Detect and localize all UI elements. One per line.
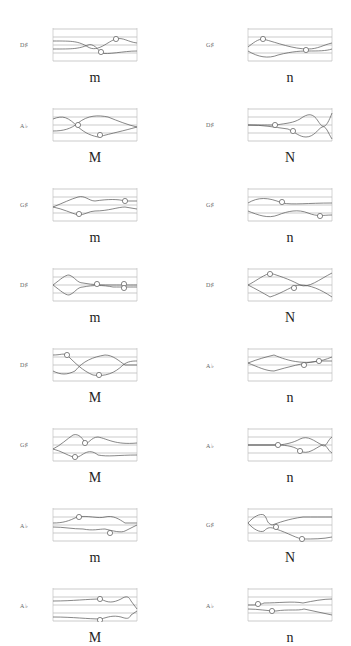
trace-curve (248, 285, 332, 297)
trace-curve (53, 39, 137, 49)
marker-circle (275, 442, 280, 447)
marker-circle (255, 601, 260, 606)
trace-curve (53, 516, 137, 523)
figure-panel: D♯m (0, 240, 175, 320)
marker-circle (97, 596, 102, 601)
marker-circle (107, 530, 112, 535)
marker-circle (64, 352, 69, 357)
figure-panel: D♯M (0, 320, 175, 400)
marker-circle (272, 122, 277, 127)
figure-panel: A♭n (176, 320, 351, 400)
staff-diagram (247, 588, 333, 622)
trace-curve (53, 117, 137, 137)
marker-circle (97, 617, 102, 622)
figure-panel: A♭n (176, 560, 351, 640)
marker-circle (96, 372, 101, 377)
trace-curve (248, 523, 332, 539)
marker-circle (297, 448, 302, 453)
figure-panel: G♯N (176, 480, 351, 560)
figure-panel: G♯m (0, 160, 175, 240)
figure-panel: G♯n (176, 0, 351, 80)
marker-circle (299, 536, 304, 541)
note-label: A♭ (20, 522, 28, 529)
trace-curve (248, 514, 332, 525)
panel-letter: M (80, 630, 110, 646)
figure-panel: D♯m (0, 0, 175, 80)
note-label: A♭ (206, 442, 214, 449)
trace-curve (248, 125, 332, 139)
marker-circle (317, 213, 322, 218)
trace-curve (53, 611, 137, 619)
marker-circle (76, 211, 81, 216)
staff-diagram (52, 188, 138, 222)
marker-circle (269, 608, 274, 613)
figure-grid: D♯mG♯nA♭MD♯NG♯mG♯nD♯mD♯ND♯MA♭nG♯MA♭nA♭mG… (0, 0, 351, 646)
trace-curve (248, 445, 332, 453)
staff-diagram (52, 428, 138, 462)
trace-curve (248, 437, 332, 446)
note-label: A♭ (206, 362, 214, 369)
staff-diagram (52, 108, 138, 142)
trace-curve (248, 273, 332, 286)
trace-curve (53, 355, 137, 374)
trace-curve (53, 525, 137, 532)
marker-circle (82, 440, 87, 445)
figure-panel: D♯N (176, 80, 351, 160)
note-label: G♯ (206, 202, 214, 208)
figure-panel: A♭M (0, 560, 175, 640)
staff-diagram (52, 268, 138, 302)
trace-curve (53, 597, 137, 609)
marker-circle (121, 285, 126, 290)
staff-diagram (52, 508, 138, 542)
note-label: D♯ (20, 42, 28, 48)
note-label: G♯ (206, 42, 214, 48)
trace-curve (248, 113, 332, 126)
figure-panel: A♭n (176, 400, 351, 480)
trace-curve (53, 45, 137, 54)
marker-circle (267, 271, 272, 276)
figure-panel: A♭m (0, 480, 175, 560)
staff-diagram (52, 348, 138, 382)
marker-circle (273, 524, 278, 529)
trace-curve (248, 199, 332, 204)
figure-panel: A♭M (0, 80, 175, 160)
staff-diagram (52, 588, 138, 622)
marker-circle (97, 132, 102, 137)
note-label: G♯ (20, 202, 28, 208)
staff-diagram (247, 108, 333, 142)
panel-letter: n (275, 630, 305, 646)
marker-circle (260, 36, 265, 41)
figure-panel: G♯M (0, 400, 175, 480)
marker-circle (72, 454, 77, 459)
staff-diagram (247, 28, 333, 62)
marker-circle (113, 36, 118, 41)
marker-circle (98, 49, 103, 54)
marker-circle (279, 199, 284, 204)
note-label: D♯ (20, 362, 28, 368)
staff-diagram (247, 508, 333, 542)
marker-circle (76, 514, 81, 519)
staff-diagram (247, 428, 333, 462)
staff-diagram (247, 188, 333, 222)
marker-circle (75, 122, 80, 127)
trace-curve (248, 609, 332, 615)
marker-circle (291, 285, 296, 290)
staff-diagram (52, 28, 138, 62)
marker-circle (94, 281, 99, 286)
note-label: D♯ (206, 282, 214, 288)
marker-circle (303, 47, 308, 52)
marker-circle (301, 362, 306, 367)
note-label: A♭ (20, 602, 28, 609)
figure-panel: G♯n (176, 160, 351, 240)
marker-circle (122, 198, 127, 203)
note-label: D♯ (206, 122, 214, 128)
note-label: G♯ (20, 442, 28, 448)
staff-diagram (247, 348, 333, 382)
figure-panel: D♯N (176, 240, 351, 320)
staff-diagram (247, 268, 333, 302)
trace-curve (53, 207, 137, 215)
marker-circle (290, 128, 295, 133)
note-label: D♯ (20, 282, 28, 288)
trace-curve (53, 116, 137, 131)
marker-circle (316, 358, 321, 363)
